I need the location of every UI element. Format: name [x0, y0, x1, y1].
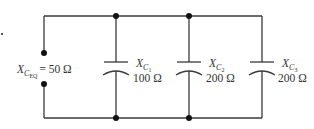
- capacitor-c3: XC3 200 Ω: [249, 16, 307, 118]
- parallel-capacitor-circuit: XCEQ= 50 Ω XC1 100 Ω XC2 200 Ω XC3: [0, 0, 314, 129]
- capacitor-c2-value: 200 Ω: [206, 72, 235, 84]
- junction-node: [113, 115, 119, 121]
- terminal-bottom: [41, 81, 47, 87]
- capacitor-c1-symbol: XC1: [135, 57, 151, 73]
- equivalent-reactance-label: XCEQ= 50 Ω: [16, 63, 72, 79]
- capacitor-c2-symbol: XC2: [208, 57, 224, 73]
- capacitor-c1-value: 100 Ω: [133, 72, 162, 84]
- capacitor-c2: XC2 200 Ω: [176, 13, 235, 121]
- junction-node: [113, 13, 119, 19]
- wiring: [44, 16, 262, 118]
- capacitor-c1: XC1 100 Ω: [103, 13, 162, 121]
- terminal-top: [41, 50, 47, 56]
- junction-node: [186, 115, 192, 121]
- stray-mark: [1, 33, 3, 35]
- capacitor-c3-value: 200 Ω: [278, 72, 307, 84]
- capacitor-c3-symbol: XC3: [281, 57, 297, 73]
- junction-node: [186, 13, 192, 19]
